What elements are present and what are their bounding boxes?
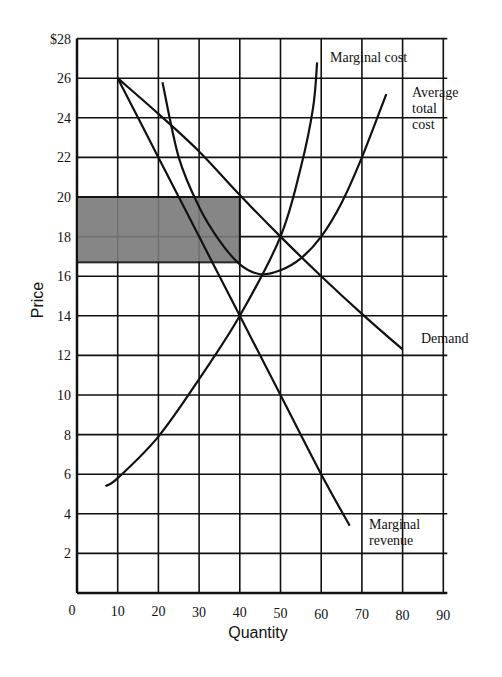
label-mr-line2: revenue — [369, 533, 413, 548]
curve-marginal-revenue — [118, 78, 350, 525]
y-tick-label: 26 — [57, 71, 71, 86]
profit-rectangle — [77, 197, 240, 262]
x-tick-label: 80 — [396, 608, 410, 623]
y-tick-label: 2 — [64, 546, 71, 561]
x-tick-label: 40 — [233, 605, 247, 620]
x-tick-label: 70 — [355, 607, 369, 622]
curves — [105, 62, 402, 525]
y-tick-label: 14 — [57, 309, 71, 324]
y-tick-label: 4 — [64, 507, 71, 522]
label-atc-line1: Average — [412, 85, 458, 100]
y-tick-label: 6 — [64, 467, 71, 482]
y-tick-label: 12 — [57, 348, 71, 363]
x-tick-label: 0 — [69, 603, 76, 618]
label-marginal-cost: Marginal cost — [330, 50, 407, 65]
curve-marginal-cost — [105, 62, 317, 486]
y-tick-label: 18 — [57, 230, 71, 245]
y-tick-label: 24 — [57, 111, 71, 126]
label-atc-line2: total — [412, 101, 437, 116]
grid — [77, 39, 447, 593]
y-tick-label: 16 — [57, 269, 71, 284]
y-tick-label: 20 — [57, 190, 71, 205]
label-demand: Demand — [421, 331, 468, 346]
x-axis-title: Quantity — [228, 624, 288, 641]
y-tick-label: $28 — [50, 32, 71, 47]
economics-chart: 0102030405060708090246810121416182022242… — [0, 0, 502, 677]
label-atc-line3: cost — [412, 117, 435, 132]
y-axis-title: Price — [29, 282, 46, 319]
x-tick-label: 10 — [111, 604, 125, 619]
x-tick-label: 50 — [274, 606, 288, 621]
y-tick-label: 22 — [57, 150, 71, 165]
y-tick-label: 10 — [57, 388, 71, 403]
y-tick-label: 8 — [64, 428, 71, 443]
label-mr-line1: Marginal — [369, 517, 420, 532]
x-tick-label: 30 — [192, 605, 206, 620]
x-tick-label: 90 — [436, 608, 450, 623]
x-tick-label: 20 — [151, 604, 165, 619]
x-tick-label: 60 — [314, 607, 328, 622]
